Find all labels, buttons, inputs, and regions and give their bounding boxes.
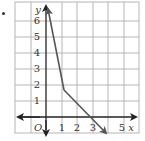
svg-text:4: 4 xyxy=(34,47,40,58)
origin-label: O xyxy=(34,122,42,133)
svg-text:2: 2 xyxy=(34,79,40,90)
svg-text:2: 2 xyxy=(74,122,80,133)
svg-text:1: 1 xyxy=(34,95,40,106)
graph-line-lower xyxy=(64,90,106,133)
y-axis-label: y xyxy=(34,4,41,15)
svg-text:3: 3 xyxy=(34,63,40,74)
coordinate-graph: 1 2 3 4 5 6 1 2 3 5 x y O xyxy=(0,0,145,141)
svg-text:6: 6 xyxy=(34,15,40,26)
svg-text:3: 3 xyxy=(90,122,96,133)
x-axis-label: x xyxy=(128,122,134,133)
x-tick-labels: 1 2 3 5 xyxy=(59,122,125,133)
y-tick-labels: 1 2 3 4 5 6 xyxy=(34,15,40,106)
svg-text:5: 5 xyxy=(119,122,125,133)
svg-text:1: 1 xyxy=(59,122,65,133)
svg-text:5: 5 xyxy=(34,31,40,42)
